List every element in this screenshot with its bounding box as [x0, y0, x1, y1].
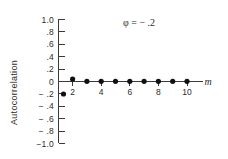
- data-point: [70, 77, 75, 82]
- data-point: [61, 91, 66, 96]
- y-tick-label: −1.0: [36, 139, 54, 149]
- x-tick-label: 6: [127, 87, 132, 97]
- y-axis-title: Autocorrelation: [9, 60, 19, 125]
- x-tick-label: 4: [99, 87, 104, 97]
- y-tick-label: .8: [47, 27, 55, 37]
- y-tick-label: 0: [49, 77, 54, 87]
- y-tick-label: − .4: [39, 101, 54, 111]
- data-point: [127, 79, 132, 84]
- y-tick-label: 1.0: [42, 15, 54, 25]
- data-point: [184, 79, 189, 84]
- y-tick-label: .6: [47, 39, 55, 49]
- data-point: [170, 79, 175, 84]
- x-tick-label: 8: [156, 87, 161, 97]
- data-point: [142, 79, 147, 84]
- data-point: [99, 79, 104, 84]
- y-tick-label: − .8: [39, 126, 54, 136]
- x-tick-label: 2: [70, 87, 75, 97]
- x-tick-label: 10: [182, 87, 192, 97]
- data-point: [113, 79, 118, 84]
- y-tick-label: .4: [47, 52, 55, 62]
- y-tick-label: − .2: [39, 89, 54, 99]
- autocorrelation-figure: 1.0 .8 .6 .4 .2 0 − .2 − .4 − .6 − .8 −1…: [0, 0, 228, 159]
- chart-canvas: 1.0 .8 .6 .4 .2 0 − .2 − .4 − .6 − .8 −1…: [0, 0, 228, 159]
- data-point: [156, 79, 161, 84]
- y-tick-label: .2: [47, 64, 55, 74]
- x-axis-title: m: [204, 76, 211, 87]
- phi-annotation: φ = − .2: [123, 17, 155, 28]
- y-tick-label: − .6: [39, 114, 54, 124]
- data-point: [84, 79, 89, 84]
